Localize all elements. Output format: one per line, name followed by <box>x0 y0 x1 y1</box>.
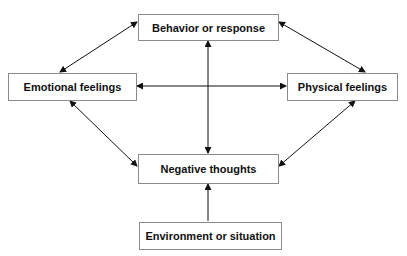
arrow-emotional-negative <box>70 101 137 166</box>
arrow-behavior-emotional <box>60 22 137 72</box>
arrow-physical-negative <box>279 101 355 166</box>
node-environment-or-situation: Environment or situation <box>139 222 282 250</box>
node-physical-feelings: Physical feelings <box>287 73 398 101</box>
node-negative-thoughts: Negative thoughts <box>138 154 279 184</box>
node-emotional-feelings: Emotional feelings <box>8 73 137 101</box>
node-behavior-or-response: Behavior or response <box>138 14 279 41</box>
arrow-behavior-physical <box>279 22 365 72</box>
